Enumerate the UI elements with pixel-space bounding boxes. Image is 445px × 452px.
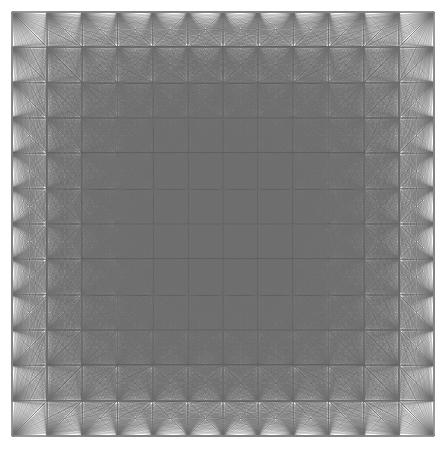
figure-container: Complete graph on a square lattice All p… [0, 0, 445, 452]
edge-layer [12, 12, 434, 436]
edge-bundle [12, 295, 434, 436]
lattice-complete-graph [0, 0, 445, 452]
